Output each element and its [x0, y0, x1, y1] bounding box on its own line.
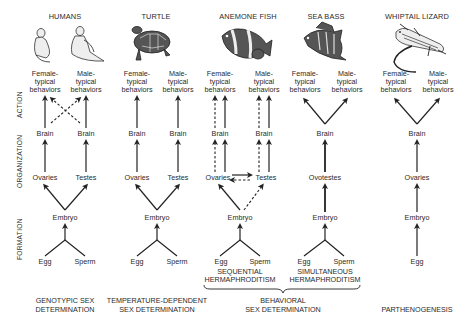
axis-label-action: ACTION — [16, 91, 23, 118]
anemone-sperm: Sperm — [249, 257, 270, 266]
sea-bass-embryo: Embryo — [313, 213, 338, 222]
sea-bass-illustration — [304, 22, 346, 60]
humans-egg: Egg — [39, 257, 52, 266]
whiptail-ovaries: Ovaries — [405, 173, 430, 182]
humans-brain-right: Brain — [78, 129, 95, 138]
anemone-testes: Testes — [256, 173, 277, 182]
behavioral-caption: BEHAVIORAL SEX DETERMINATION — [245, 296, 320, 314]
whiptail-lizard-illustration — [394, 24, 446, 72]
svg-text:behaviors: behaviors — [121, 85, 153, 94]
anemone-embryo: Embryo — [228, 213, 253, 222]
whiptail-egg: Egg — [411, 257, 424, 266]
svg-text:HERMAPHRODITISM: HERMAPHRODITISM — [289, 275, 360, 284]
species-title-anemone-fish: ANEMONE FISH — [219, 12, 276, 21]
sea-bass-female-behaviors: Female- typical behaviors — [289, 69, 321, 94]
species-title-turtle: TURTLE — [141, 12, 170, 21]
whiptail-embryo: Embryo — [405, 213, 430, 222]
turtle-illustration — [132, 27, 170, 61]
sea-bass-ovotestes: Ovotestes — [309, 173, 342, 182]
turtle-embryo: Embryo — [145, 213, 170, 222]
turtle-ovaries: Ovaries — [125, 173, 150, 182]
anemone-fish-female-behaviors: Female- typical behaviors — [204, 69, 236, 94]
anemone-brain-left: Brain — [212, 129, 229, 138]
species-title-humans: HUMANS — [49, 12, 82, 21]
anemone-fish-male-behaviors: Male- typical behaviors — [248, 69, 280, 94]
sea-bass-egg: Egg — [298, 257, 311, 266]
turtle-egg: Egg — [131, 257, 144, 266]
whiptail-brain: Brain — [409, 129, 426, 138]
svg-text:behaviors: behaviors — [70, 85, 102, 94]
turtle-testes: Testes — [168, 173, 189, 182]
anemone-ovaries: Ovaries — [206, 173, 231, 182]
behavioral-brace — [204, 285, 360, 293]
anemone-egg: Egg — [215, 257, 228, 266]
species-title-whiptail-lizard: WHIPTAIL LIZARD — [385, 12, 449, 21]
sequential-hermaphroditism-caption: SEQUENTIAL HERMAPHRODITISM — [204, 267, 275, 284]
sea-bass-sperm: Sperm — [333, 257, 354, 266]
humans-ovaries: Ovaries — [33, 173, 58, 182]
svg-text:behaviors: behaviors — [29, 85, 61, 94]
svg-text:behaviors: behaviors — [248, 85, 280, 94]
axis-label-organization: ORGANIZATION — [16, 135, 23, 188]
humans-male-behaviors: Male- typical behaviors — [70, 69, 102, 94]
sea-bass-male-behaviors: Male- typical behaviors — [331, 69, 363, 94]
humans-brain-left: Brain — [37, 129, 54, 138]
humans-female-behaviors: Female- typical behaviors — [29, 69, 61, 94]
axis-label-formation: FORMATION — [16, 218, 23, 260]
svg-text:TEMPERATURE-DEPENDENT: TEMPERATURE-DEPENDENT — [107, 296, 208, 305]
svg-text:behaviors: behaviors — [204, 85, 236, 94]
turtle-female-behaviors: Female- typical behaviors — [121, 69, 153, 94]
svg-text:behaviors: behaviors — [422, 85, 454, 94]
humans-sperm: Sperm — [74, 257, 95, 266]
whiptail-male-behaviors: Male- typical behaviors — [422, 69, 454, 94]
turtle-sperm: Sperm — [166, 257, 187, 266]
sea-bass-brain: Brain — [317, 129, 334, 138]
svg-text:SEX DETERMINATION: SEX DETERMINATION — [119, 305, 194, 314]
anemone-brain-right: Brain — [256, 129, 273, 138]
svg-text:behaviors: behaviors — [289, 85, 321, 94]
whiptail-female-behaviors: Female- typical behaviors — [380, 69, 412, 94]
genotypic-caption: GENOTYPIC SEX DETERMINATION — [36, 296, 95, 314]
sex-determination-diagram: ACTION ORGANIZATION FORMATION HUMANS TUR… — [0, 0, 462, 327]
svg-text:behaviors: behaviors — [162, 85, 194, 94]
turtle-brain-right: Brain — [170, 129, 187, 138]
humans-embryo: Embryo — [53, 213, 78, 222]
species-title-sea-bass: SEA BASS — [308, 12, 345, 21]
temperature-dependent-caption: TEMPERATURE-DEPENDENT SEX DETERMINATION — [107, 296, 208, 314]
turtle-male-behaviors: Male- typical behaviors — [162, 69, 194, 94]
svg-text:SEX DETERMINATION: SEX DETERMINATION — [245, 305, 320, 314]
turtle-brain-left: Brain — [129, 129, 146, 138]
simultaneous-hermaphroditism-caption: SIMULTANEOUS HERMAPHRODITISM — [289, 267, 360, 284]
svg-text:PARTHENOGENESIS: PARTHENOGENESIS — [381, 305, 452, 314]
humans-testes: Testes — [76, 173, 97, 182]
svg-text:BEHAVIORAL: BEHAVIORAL — [260, 296, 305, 305]
svg-text:GENOTYPIC SEX: GENOTYPIC SEX — [36, 296, 95, 305]
svg-text:DETERMINATION: DETERMINATION — [36, 305, 95, 314]
svg-text:HERMAPHRODITISM: HERMAPHRODITISM — [204, 275, 275, 284]
parthenogenesis-caption: PARTHENOGENESIS — [381, 305, 452, 314]
svg-text:behaviors: behaviors — [331, 85, 363, 94]
anemone-fish-illustration — [222, 29, 272, 59]
svg-text:behaviors: behaviors — [380, 85, 412, 94]
humans-illustration — [35, 27, 105, 63]
